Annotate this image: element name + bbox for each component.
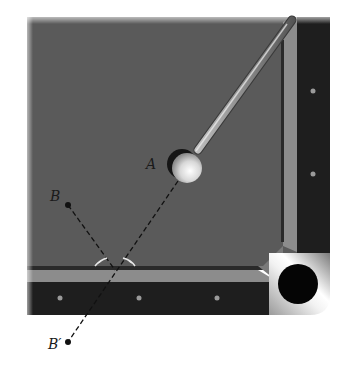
cue-ball-a xyxy=(172,153,202,183)
label-b-prime: B′ xyxy=(48,337,61,351)
bottom-rail xyxy=(27,282,269,315)
rail-dot-icon xyxy=(311,89,316,94)
label-a: A xyxy=(146,157,156,171)
diagram-canvas xyxy=(0,0,339,367)
bottom-cushion-edge xyxy=(27,266,263,270)
edge-fade-left xyxy=(24,14,33,319)
right-rail xyxy=(297,17,330,253)
right-cushion xyxy=(283,17,297,252)
billiard-diagram: A B B′ xyxy=(0,0,339,367)
rail-dot-icon xyxy=(137,296,142,301)
table-felt xyxy=(27,17,297,267)
rail-dot-icon xyxy=(58,296,63,301)
label-b: B xyxy=(50,189,60,203)
point-b-prime xyxy=(65,339,71,345)
right-cushion-edge xyxy=(281,40,284,242)
bottom-cushion xyxy=(27,270,278,282)
rail-dot-icon xyxy=(311,172,316,177)
corner-pocket xyxy=(278,264,318,304)
rail-dot-icon xyxy=(215,296,220,301)
point-b xyxy=(65,202,71,208)
